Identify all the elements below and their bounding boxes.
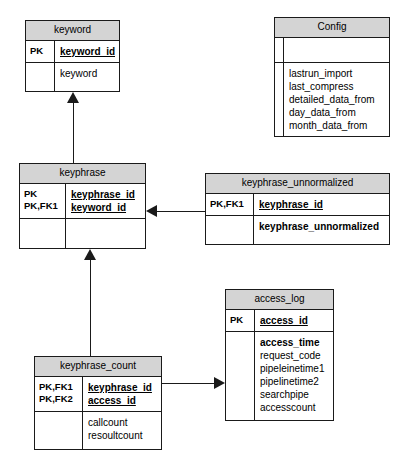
- entity-config-attr-gutter: [275, 63, 284, 136]
- entity-keyword-key-labels: PK: [26, 41, 55, 62]
- entity-keyphrase-title: keyphrase: [20, 164, 145, 184]
- entity-keyphrase-unnormalized-attr-gutter: [206, 216, 254, 244]
- entity-keyword-attributes: keyword: [55, 63, 119, 91]
- entity-keyword-attr-gutter: [26, 63, 55, 91]
- entity-access-log-key-labels: PK: [226, 310, 255, 331]
- entity-config-key-labels: [275, 38, 284, 62]
- entity-keyphrase-count-attr-row: callcount resoultcount: [35, 412, 161, 449]
- entity-config-attributes: lastrun_import last_compress detailed_da…: [284, 63, 389, 136]
- er-diagram-canvas: keyword PK keyword_id keyword Config las…: [0, 0, 406, 468]
- entity-config[interactable]: Config lastrun_import last_compress deta…: [274, 17, 390, 137]
- entity-config-title: Config: [275, 18, 389, 38]
- entity-keyphrase-count-title: keyphrase_count: [35, 357, 161, 377]
- entity-access-log-title: access_log: [226, 290, 333, 310]
- entity-keyphrase-unnormalized-title: keyphrase_unnormalized: [206, 174, 389, 194]
- entity-keyphrase-unnormalized-key-row: PK,FK1 keyphrase_id: [206, 194, 389, 216]
- entity-keyphrase-unnormalized-key-columns: keyphrase_id: [254, 194, 389, 215]
- relationship-keyphrase-count-to-keyphrase-line: [90, 260, 91, 356]
- entity-access-log-key-columns: access_id: [255, 310, 333, 331]
- entity-keyphrase-attributes: [66, 219, 145, 248]
- entity-keyphrase-key-columns: keyphrase_id keyword_id: [66, 184, 145, 218]
- entity-keyword-key-columns: keyword_id: [55, 41, 119, 62]
- entity-keyword-attr-row: keyword: [26, 63, 119, 91]
- entity-config-key-row: [275, 38, 389, 63]
- entity-access-log-attr-gutter: [226, 332, 255, 420]
- entity-keyphrase-key-row: PK PK,FK1 keyphrase_id keyword_id: [20, 184, 145, 219]
- relationship-keyphrase-to-keyword-arrowhead: [67, 92, 79, 103]
- relationship-keyphrase-count-to-keyphrase-arrowhead: [84, 249, 96, 260]
- entity-keyword[interactable]: keyword PK keyword_id keyword: [25, 20, 120, 92]
- entity-keyphrase-key-labels: PK PK,FK1: [20, 184, 66, 218]
- entity-keyphrase-attr-row: [20, 219, 145, 248]
- entity-access-log[interactable]: access_log PK access_id access_time requ…: [225, 289, 334, 421]
- entity-keyphrase-unnormalized[interactable]: keyphrase_unnormalized PK,FK1 keyphrase_…: [205, 173, 390, 245]
- relationship-keyphrase-to-keyword-line: [73, 103, 74, 163]
- entity-access-log-key-row: PK access_id: [226, 310, 333, 332]
- entity-keyphrase[interactable]: keyphrase PK PK,FK1 keyphrase_id keyword…: [19, 163, 146, 249]
- entity-config-attr-row: lastrun_import last_compress detailed_da…: [275, 63, 389, 136]
- relationship-keyphrase-unnormalized-to-keyphrase-line: [157, 211, 205, 212]
- entity-keyphrase-count-key-labels: PK,FK1 PK,FK2: [35, 377, 83, 411]
- relationship-keyphrase-count-to-access-log-line: [162, 383, 214, 384]
- entity-keyword-title: keyword: [26, 21, 119, 41]
- entity-keyphrase-count-attr-gutter: [35, 412, 83, 449]
- entity-keyphrase-unnormalized-key-labels: PK,FK1: [206, 194, 254, 215]
- entity-access-log-attr-row: access_time request_code pipeleinetime1 …: [226, 332, 333, 420]
- entity-keyword-key-row: PK keyword_id: [26, 41, 119, 63]
- entity-config-key-columns: [284, 38, 389, 62]
- entity-access-log-attributes: access_time request_code pipeleinetime1 …: [255, 332, 333, 420]
- entity-keyphrase-unnormalized-attr-row: keyphrase_unnormalized: [206, 216, 389, 244]
- entity-keyphrase-count-key-row: PK,FK1 PK,FK2 keyphrase_id access_id: [35, 377, 161, 412]
- entity-keyphrase-count[interactable]: keyphrase_count PK,FK1 PK,FK2 keyphrase_…: [34, 356, 162, 450]
- entity-keyphrase-unnormalized-attributes: keyphrase_unnormalized: [254, 216, 389, 244]
- entity-keyphrase-count-key-columns: keyphrase_id access_id: [83, 377, 161, 411]
- entity-keyphrase-count-attributes: callcount resoultcount: [83, 412, 161, 449]
- entity-keyphrase-attr-gutter: [20, 219, 66, 248]
- relationship-keyphrase-count-to-access-log-arrowhead: [214, 377, 225, 389]
- relationship-keyphrase-unnormalized-to-keyphrase-arrowhead: [146, 205, 157, 217]
